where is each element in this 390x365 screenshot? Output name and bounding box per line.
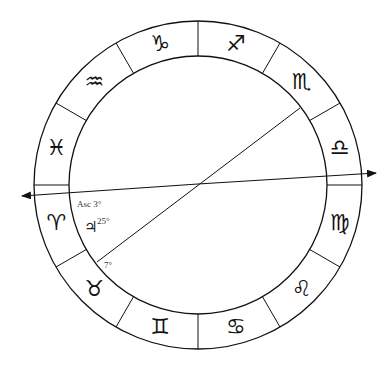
gemini-icon: ♊︎ (150, 314, 170, 339)
taurus-icon: ♉︎ (85, 276, 105, 301)
sign-divider (263, 43, 281, 73)
aries-icon: ♈︎ (47, 210, 67, 235)
aquarius-icon: ♒︎ (85, 69, 105, 94)
libra-icon: ♎︎ (330, 135, 350, 160)
jupiter-icon: ♃ (84, 218, 97, 236)
leo-icon: ♌︎ (292, 276, 312, 301)
horizon-axis-line (22, 184, 198, 196)
scorpio-icon: ♏︎ (292, 69, 312, 94)
sagittarius-icon: ♐︎ (226, 31, 246, 56)
sign-divider (56, 250, 86, 268)
sign-divider (116, 297, 134, 327)
ascendant-label: Asc 3° (77, 199, 102, 209)
aspect-line (97, 108, 300, 262)
line-degree-label: 7° (104, 260, 113, 270)
sign-divider (56, 103, 86, 121)
sign-divider (116, 43, 134, 73)
jupiter-degree: 25° (97, 216, 110, 226)
pisces-icon: ♓︎ (47, 135, 67, 160)
sign-divider (310, 250, 340, 268)
cancer-icon: ♋︎ (226, 314, 246, 339)
capricorn-icon: ♑︎ (150, 31, 170, 56)
virgo-icon: ♍︎ (330, 210, 350, 235)
sign-divider (263, 297, 281, 327)
horizon-axis-line-right (198, 173, 376, 184)
sign-divider (310, 103, 340, 121)
natal-chart-wheel: ♑︎♐︎♏︎♎︎♍︎♌︎♋︎♊︎♉︎♈︎♓︎♒︎ Asc 3° ♃ 25° 7° (0, 0, 390, 365)
